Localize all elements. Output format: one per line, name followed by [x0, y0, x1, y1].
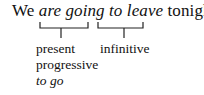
label-to-go: to go: [36, 73, 63, 88]
label-present: present: [36, 41, 75, 56]
label-infinitive: infinitive: [100, 41, 150, 56]
label-progressive: progressive: [36, 57, 98, 72]
bracket-to-leave: [98, 22, 143, 28]
bracket-are-going: [40, 22, 88, 28]
